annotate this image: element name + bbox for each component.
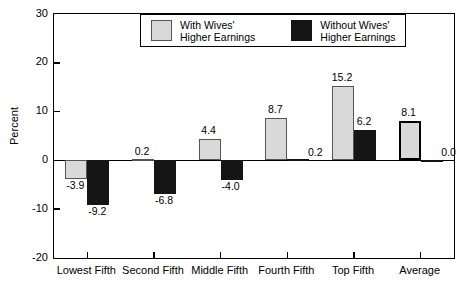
- legend-line-2: Higher Earnings: [180, 31, 255, 43]
- legend-line-1: Without Wives': [320, 19, 389, 31]
- y-tick: [54, 62, 60, 64]
- light-swatch-icon: [151, 20, 172, 41]
- bar-value-label: -3.9: [58, 180, 92, 191]
- chart-figure: Percent With Wives' Higher Earnings With…: [0, 0, 474, 293]
- bar: [287, 159, 309, 161]
- bar: [399, 121, 421, 161]
- bar-value-label: 8.1: [392, 107, 426, 118]
- x-tick: [353, 252, 355, 258]
- y-tick-label: 0: [4, 154, 48, 165]
- y-tick-label: 20: [4, 56, 48, 67]
- bar-value-label: 0.2: [125, 146, 159, 157]
- bar-value-label: -9.2: [80, 206, 114, 217]
- bar: [65, 160, 87, 179]
- x-tick: [420, 252, 422, 258]
- bar-value-label: 0.2: [298, 147, 332, 158]
- x-tick-label: Lowest Fifth: [53, 265, 120, 276]
- legend-label-without-wives: Without Wives' Higher Earnings: [320, 19, 395, 43]
- legend-line-1: With Wives': [180, 19, 235, 31]
- legend-label-with-wives: With Wives' Higher Earnings: [180, 19, 255, 43]
- plot-area: [53, 13, 455, 259]
- bar-value-label: -4.0: [214, 181, 248, 192]
- dark-swatch-icon: [291, 20, 312, 41]
- legend-line-2: Higher Earnings: [320, 31, 395, 43]
- y-tick-label: -20: [4, 252, 48, 263]
- x-tick-label: Fourth Fifth: [253, 265, 320, 276]
- bar-value-label: -6.8: [147, 195, 181, 206]
- legend-item-without-wives: Without Wives' Higher Earnings: [291, 19, 395, 43]
- y-tick-label: 10: [4, 105, 48, 116]
- x-tick-label: Second Fifth: [120, 265, 187, 276]
- bar: [354, 130, 376, 160]
- chart-legend: With Wives' Higher Earnings Without Wive…: [140, 14, 406, 47]
- bar-value-label: 4.4: [192, 125, 226, 136]
- bar: [265, 118, 287, 160]
- bar: [221, 160, 243, 180]
- bar: [132, 159, 154, 161]
- x-tick-label: Middle Fifth: [186, 265, 253, 276]
- x-tick: [153, 252, 155, 258]
- x-tick: [87, 252, 89, 258]
- x-tick-label: Top Fifth: [320, 265, 387, 276]
- y-tick: [54, 208, 60, 210]
- legend-item-with-wives: With Wives' Higher Earnings: [151, 19, 255, 43]
- bar: [421, 160, 443, 162]
- y-tick: [54, 111, 60, 113]
- bar: [154, 160, 176, 193]
- x-tick-label: Average: [386, 265, 453, 276]
- bar-value-label: 6.2: [347, 116, 381, 127]
- x-tick: [220, 252, 222, 258]
- bar: [199, 139, 221, 160]
- plot-inner: [54, 14, 454, 258]
- bar-value-label: 0.0: [432, 147, 466, 158]
- zero-baseline: [54, 160, 454, 162]
- x-tick: [287, 252, 289, 258]
- y-tick-label: 30: [4, 8, 48, 19]
- y-tick: [54, 160, 60, 162]
- bar-value-label: 8.7: [258, 104, 292, 115]
- y-tick-label: -10: [4, 203, 48, 214]
- bar-value-label: 15.2: [325, 72, 359, 83]
